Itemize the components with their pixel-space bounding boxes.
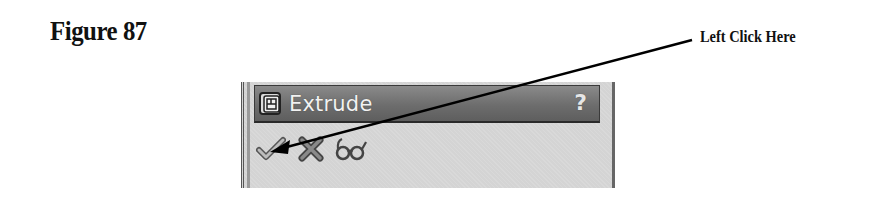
x-icon (298, 136, 324, 166)
ok-checkmark-button[interactable] (254, 135, 288, 167)
eyeglasses-icon (334, 136, 368, 166)
extrude-property-manager: Extrude ? (241, 82, 615, 188)
panel-title-bar: Extrude ? (254, 85, 600, 123)
help-button[interactable]: ? (574, 90, 587, 115)
callout-label: Left Click Here (700, 28, 796, 46)
checkmark-icon (256, 136, 286, 166)
figure-label: Figure 87 (50, 16, 147, 47)
detailed-preview-button[interactable] (334, 135, 368, 167)
panel-toolbar (254, 134, 368, 168)
panel-title: Extrude (289, 92, 373, 116)
extrude-feature-icon (259, 92, 283, 116)
cancel-x-button[interactable] (294, 135, 328, 167)
